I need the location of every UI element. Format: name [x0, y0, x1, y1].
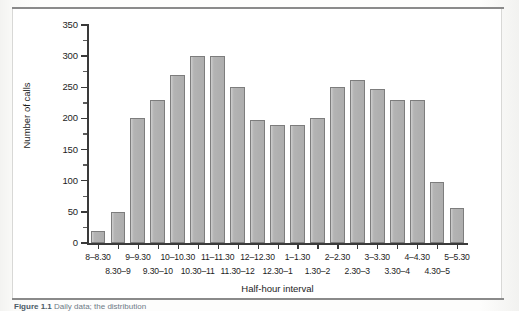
bar: [91, 231, 106, 243]
bar: [330, 87, 345, 243]
x-tick-label: 2–2.30: [325, 252, 350, 262]
x-tick: [437, 244, 438, 249]
x-tick: [158, 244, 159, 249]
bar: [250, 120, 265, 243]
x-tick: [457, 244, 458, 249]
x-tick: [218, 244, 219, 249]
x-tick-label: 2.30–3: [345, 266, 370, 276]
y-tick-major: [81, 24, 87, 26]
bar: [350, 80, 365, 243]
bar: [410, 100, 425, 243]
bar: [190, 56, 205, 243]
bar: [370, 89, 385, 243]
y-tick-label: 350: [38, 19, 78, 30]
bar-series: [88, 25, 467, 243]
y-tick-major: [81, 149, 87, 151]
bar: [310, 118, 325, 243]
x-tick: [337, 244, 338, 249]
x-tick-label: 12–12.30: [240, 252, 275, 262]
x-tick-label: 3–3.30: [365, 252, 390, 262]
x-tick-label: 4–4.30: [404, 252, 429, 262]
y-tick-minor: [83, 196, 87, 198]
x-tick: [258, 244, 259, 249]
y-tick-label: 200: [38, 112, 78, 123]
x-tick-label: 10.30–11: [181, 266, 215, 276]
y-tick-minor: [83, 164, 87, 166]
y-axis-title: Number of calls: [21, 61, 32, 171]
bar: [150, 100, 165, 243]
y-tick-major: [81, 55, 87, 57]
bar: [450, 208, 465, 244]
figure-caption-number: Figure 1.1: [14, 302, 52, 311]
x-tick: [118, 244, 119, 249]
x-tick-label: 9.30–10: [143, 266, 173, 276]
bar-chart: 050100150200250300350 Number of calls 8–…: [0, 0, 519, 311]
bar: [170, 75, 185, 243]
x-tick-label: 1–1.30: [285, 252, 310, 262]
bar: [390, 100, 405, 243]
x-tick-label: 5–5.30: [444, 252, 469, 262]
y-tick-major: [81, 87, 87, 89]
x-tick-label: 8.30–9: [105, 266, 130, 276]
bar: [230, 87, 245, 243]
x-tick-label: 8–8.30: [85, 252, 110, 262]
x-tick: [357, 244, 358, 249]
x-tick-label: 11.30–12: [221, 266, 255, 276]
bar: [270, 125, 285, 243]
y-tick-major: [81, 118, 87, 120]
x-tick: [178, 244, 179, 249]
y-tick-label: 50: [38, 206, 78, 217]
x-tick: [397, 244, 398, 249]
y-tick-minor: [83, 227, 87, 229]
x-tick: [98, 244, 99, 249]
y-tick-minor: [83, 133, 87, 135]
y-tick-label: 150: [38, 144, 78, 155]
x-tick-label: 9–9.30: [125, 252, 150, 262]
y-tick-major: [81, 211, 87, 213]
x-tick: [377, 244, 378, 249]
y-tick-label: 100: [38, 175, 78, 186]
y-tick-major: [81, 242, 87, 244]
bar: [210, 56, 225, 243]
x-tick: [198, 244, 199, 249]
x-axis-title: Half-hour interval: [88, 283, 467, 294]
x-tick: [297, 244, 298, 249]
x-tick: [238, 244, 239, 249]
x-tick: [317, 244, 318, 249]
x-tick-label: 10–10.30: [160, 252, 195, 262]
x-tick-label: 11–11.30: [201, 252, 234, 262]
x-tick: [278, 244, 279, 249]
x-tick-label: 1.30–2: [305, 266, 330, 276]
y-tick-minor: [83, 40, 87, 42]
y-tick-label: 250: [38, 81, 78, 92]
x-tick-label: 4.30–5: [424, 266, 449, 276]
bar: [290, 125, 305, 243]
y-tick-label: 0: [38, 237, 78, 248]
figure-caption-text: Daily data; the distribution: [54, 302, 146, 311]
x-tick: [138, 244, 139, 249]
bar: [130, 118, 145, 243]
bar: [111, 212, 126, 243]
y-tick-minor: [83, 71, 87, 73]
y-tick-major: [81, 180, 87, 182]
x-tick: [417, 244, 418, 249]
x-tick-label: 3.30–4: [384, 266, 409, 276]
figure-caption: Figure 1.1 Daily data; the distribution: [14, 302, 484, 311]
y-tick-minor: [83, 102, 87, 104]
bar: [430, 182, 445, 243]
x-tick-label: 12.30–1: [262, 266, 292, 276]
y-tick-label: 300: [38, 50, 78, 61]
